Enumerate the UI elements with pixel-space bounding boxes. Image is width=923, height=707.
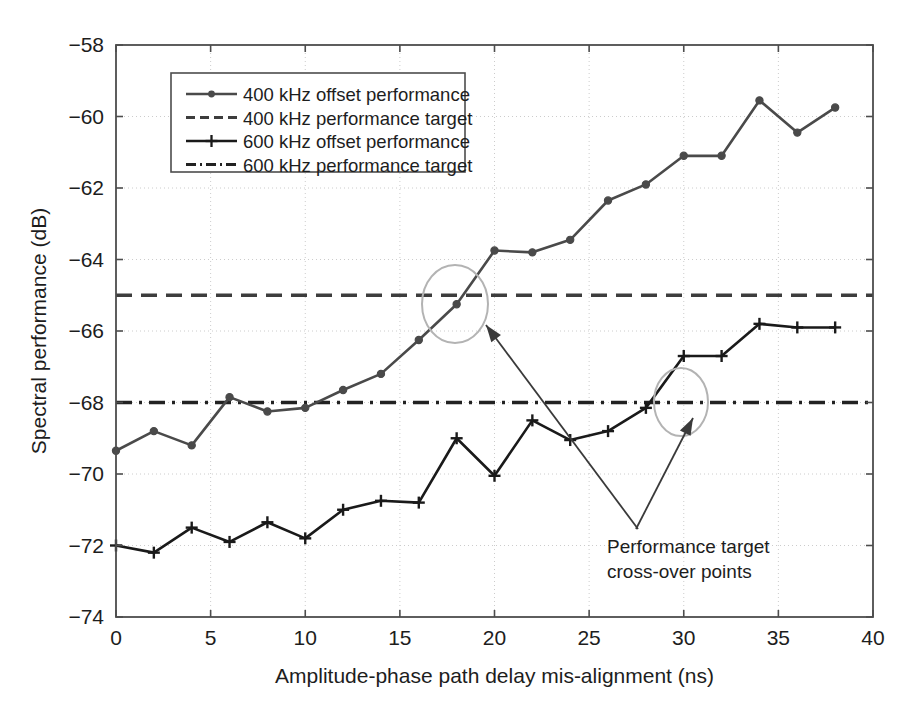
data-point-marker	[529, 249, 536, 256]
y-axis-tick-label: −64	[68, 248, 104, 271]
data-point-marker	[264, 408, 271, 415]
reference-lines-layer	[116, 295, 873, 402]
data-point-marker	[377, 370, 384, 377]
y-axis-title: Spectral performance (dB)	[27, 208, 50, 454]
x-axis-tick-label: 15	[388, 626, 411, 649]
series-line-600khz	[116, 324, 835, 553]
data-point-marker	[680, 152, 687, 159]
y-axis-tick-label: −60	[68, 105, 104, 128]
annotation-text-line2: cross-over points	[607, 561, 752, 582]
data-point-marker	[567, 236, 574, 243]
x-axis-tick-label: 20	[483, 626, 506, 649]
y-axis-tick-label: −58	[68, 33, 104, 56]
x-axis-title: Amplitude-phase path delay mis-alignment…	[275, 664, 714, 687]
x-axis-tick-label: 25	[577, 626, 600, 649]
annotation-text-line1: Performance target	[607, 536, 770, 557]
x-axis-tick-label: 0	[110, 626, 122, 649]
y-axis-tick-label: −66	[68, 319, 104, 342]
data-point-marker	[302, 404, 309, 411]
legend-label-3: 600 kHz performance target	[243, 155, 472, 176]
data-point-marker	[604, 197, 611, 204]
legend-label-2: 600 kHz offset performance	[243, 131, 470, 152]
data-point-marker	[340, 386, 347, 393]
data-point-marker	[226, 394, 233, 401]
y-axis-tick-label: −74	[68, 605, 104, 628]
data-point-marker	[415, 336, 422, 343]
x-axis-tick-label: 40	[861, 626, 884, 649]
data-point-marker	[453, 301, 460, 308]
data-point-marker	[642, 181, 649, 188]
legend-label-0: 400 kHz offset performance	[243, 84, 470, 105]
x-axis-tick-label: 5	[205, 626, 217, 649]
y-axis-tick-label: −72	[68, 534, 104, 557]
legend-label-1: 400 kHz performance target	[243, 108, 472, 129]
chart-svg: Performance targetcross-over points 0510…	[0, 0, 923, 707]
data-point-marker	[832, 104, 839, 111]
data-point-marker	[150, 428, 157, 435]
data-point-marker	[188, 442, 195, 449]
x-axis-tick-label: 10	[294, 626, 317, 649]
x-axis-tick-label: 30	[672, 626, 695, 649]
y-axis-tick-label: −62	[68, 176, 104, 199]
annotation-arrow-400khz-head	[486, 325, 501, 342]
legend-layer: 400 kHz offset performance400 kHz perfor…	[171, 73, 472, 176]
data-point-marker	[756, 97, 763, 104]
y-axis-tick-label: −70	[68, 462, 104, 485]
data-point-marker	[794, 129, 801, 136]
annotation-layer: Performance targetcross-over points	[422, 265, 770, 582]
data-point-marker	[718, 152, 725, 159]
y-axis-tick-label: −68	[68, 391, 104, 414]
x-axis-tick-label: 35	[767, 626, 790, 649]
legend-sample-marker	[208, 91, 215, 98]
data-point-marker	[491, 247, 498, 254]
figure-container: Performance targetcross-over points 0510…	[0, 0, 923, 707]
